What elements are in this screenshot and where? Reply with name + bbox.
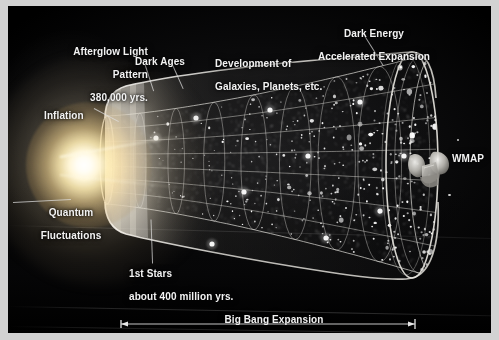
wmap-text: WMAP [452, 153, 491, 165]
label-quantum-fluctuations: Quantum Fluctuations [25, 195, 117, 253]
field-star [426, 92, 428, 94]
diagram-plate: Afterglow Light Pattern 380,000 yrs. Dar… [8, 6, 491, 333]
field-star [448, 194, 451, 196]
figure-canvas: Afterglow Light Pattern 380,000 yrs. Dar… [0, 0, 499, 340]
first-stars-line-1: 1st Stars [129, 268, 279, 280]
development-line-2: Galaxies, Planets, etc. [215, 81, 345, 93]
dark-ages-text: Dark Ages [135, 56, 211, 68]
quantum-line-1: Quantum [25, 207, 117, 219]
dark-energy-line-1: Dark Energy [300, 28, 448, 40]
label-wmap: WMAP [452, 141, 491, 176]
wmap-spacecraft-icon [406, 144, 452, 192]
label-dark-ages: Dark Ages [135, 44, 211, 79]
afterglow-line-2: Pattern [28, 69, 148, 81]
label-inflation: Inflation [44, 98, 118, 133]
dark-energy-line-2: Accelerated Expansion [300, 51, 448, 63]
afterglow-line-1: Afterglow Light [28, 46, 148, 58]
first-stars-line-2: about 400 million yrs. [129, 291, 279, 303]
label-total-age: 13.7 billion years [204, 322, 344, 333]
inflation-text: Inflation [44, 110, 118, 122]
label-dark-energy: Dark Energy Accelerated Expansion [300, 16, 448, 74]
field-star [433, 221, 435, 223]
quantum-line-2: Fluctuations [25, 230, 117, 242]
